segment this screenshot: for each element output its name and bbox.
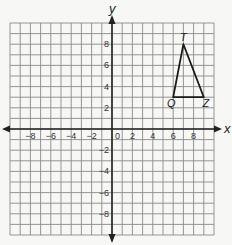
x-tick-label: 8 — [191, 131, 196, 141]
y-tick-label: −4 — [99, 166, 109, 176]
y-axis-up-arrow-icon — [109, 15, 116, 24]
x-axis-label: x — [223, 121, 231, 136]
y-tick-label: −6 — [99, 188, 109, 198]
vertex-label-q: Q — [167, 97, 176, 109]
x-tick-label: 2 — [130, 131, 135, 141]
coordinate-plane: xy −8−6−4−224688642−2−4−6−80 TQZ — [0, 0, 232, 245]
vertex-label-t: T — [180, 31, 188, 43]
y-axis-label: y — [108, 1, 117, 16]
y-tick-label: 2 — [104, 103, 109, 113]
x-axis-right-arrow-icon — [214, 126, 222, 133]
origin-label: 0 — [115, 131, 120, 141]
y-tick-label: 4 — [104, 82, 109, 92]
y-axis-down-arrow-icon — [109, 234, 116, 243]
triangle-outline — [173, 44, 204, 97]
x-tick-label: −4 — [66, 131, 76, 141]
y-tick-label: −8 — [99, 209, 109, 219]
y-tick-label: −2 — [99, 145, 109, 155]
x-tick-label: 4 — [150, 131, 155, 141]
y-tick-label: 6 — [104, 60, 109, 70]
x-tick-label: −2 — [86, 131, 96, 141]
x-tick-label: −8 — [25, 131, 35, 141]
x-tick-label: 6 — [171, 131, 176, 141]
axes: xy — [2, 1, 231, 243]
vertex-label-z: Z — [201, 97, 210, 109]
x-tick-label: −6 — [46, 131, 56, 141]
x-axis-left-arrow-icon — [2, 126, 10, 133]
y-tick-label: 8 — [104, 39, 109, 49]
